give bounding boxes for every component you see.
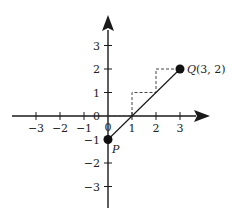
x-axis-arrow-icon bbox=[194, 110, 210, 122]
x-tick-label-origin: 0 bbox=[105, 121, 112, 134]
y-tick-label: −2 bbox=[84, 157, 100, 170]
x-tick-label: 1 bbox=[129, 122, 136, 135]
point-q-label: Q(3, 2) bbox=[187, 63, 226, 76]
y-tick-label: 3 bbox=[93, 40, 100, 53]
x-tick-labels: −3 −2 −1 0 1 2 3 bbox=[28, 121, 184, 135]
dashed-steps bbox=[108, 69, 180, 116]
segment-pq bbox=[108, 69, 180, 140]
x-tick-label: −3 bbox=[28, 122, 44, 135]
y-tick-label: −3 bbox=[84, 181, 100, 194]
point-p-label: P bbox=[111, 143, 120, 156]
y-tick-label: −1 bbox=[84, 134, 100, 147]
y-tick-label: 0 bbox=[93, 110, 100, 123]
point-q bbox=[176, 65, 185, 74]
y-tick-label: 1 bbox=[93, 87, 100, 100]
coordinate-plane: −3 −2 −1 0 1 2 3 3 2 1 0 −1 −2 −3 P Q(3,… bbox=[0, 0, 232, 218]
axes bbox=[12, 15, 210, 208]
x-tick-label: 2 bbox=[153, 122, 160, 135]
y-axis-arrow-icon bbox=[102, 15, 114, 31]
y-tick-label: 2 bbox=[93, 63, 100, 76]
x-tick-label: −2 bbox=[52, 122, 68, 135]
x-tick-label: 3 bbox=[177, 122, 184, 135]
